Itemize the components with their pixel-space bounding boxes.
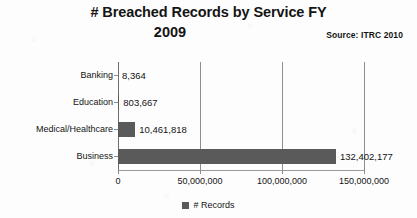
chart-image: # Breached Records by Service FY 2009 So…: [0, 0, 417, 218]
bar-value-banking: 8,364: [122, 68, 146, 83]
category-label-banking: Banking: [80, 68, 113, 83]
xtick-mark-100m: [282, 170, 283, 174]
xtick-label-150m: 150,000,000: [339, 176, 389, 186]
category-label-medical: Medical/Healthcare: [36, 122, 113, 137]
legend: # Records: [0, 200, 417, 210]
category-label-education: Education: [73, 95, 113, 110]
bar-education: [118, 95, 119, 110]
source-note: Source: ITRC 2010: [326, 30, 403, 40]
bar-row: Business 132,402,177: [118, 143, 365, 170]
xtick-label-0: 0: [115, 176, 120, 186]
plot-area: Banking 8,364 Education 803,667 Medical/…: [118, 62, 365, 170]
bar-value-business: 132,402,177: [340, 149, 393, 164]
x-axis-line: [118, 170, 365, 171]
chart-title-line-1: # Breached Records by Service FY: [0, 4, 417, 20]
bar-row: Banking 8,364: [118, 62, 365, 89]
bar-value-medical-healthcare: 10,461,818: [139, 122, 187, 137]
xtick-label-100m: 100,000,000: [257, 176, 307, 186]
legend-swatch-icon: [182, 202, 189, 209]
bar-business: [118, 149, 336, 164]
bar-value-education: 803,667: [123, 95, 157, 110]
legend-label: # Records: [193, 200, 234, 210]
bar-row: Education 803,667: [118, 89, 365, 116]
xtick-mark-150m: [364, 170, 365, 174]
xtick-label-50m: 50,000,000: [177, 176, 222, 186]
category-label-business: Business: [76, 149, 113, 164]
xtick-mark-0: [118, 170, 119, 174]
category-tick: [114, 75, 118, 76]
xtick-mark-50m: [200, 170, 201, 174]
bar-medical-healthcare: [118, 122, 135, 137]
bar-row: Medical/Healthcare 10,461,818: [118, 116, 365, 143]
chart-title-line-2: 2009: [0, 24, 340, 40]
